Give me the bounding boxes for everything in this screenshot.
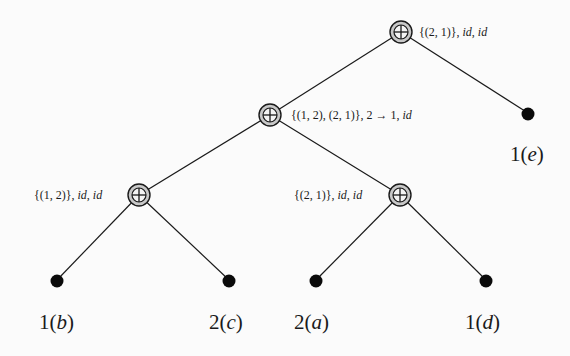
edge-mid-left: [139, 115, 270, 195]
leaf-node-d: [480, 275, 493, 288]
edge-left-leaf-b: [57, 195, 139, 280]
leaf-label-a: 2(a): [294, 310, 329, 334]
label-right: {(2, 1)}, id, id: [294, 188, 362, 202]
edge-mid-right: [270, 115, 400, 195]
leaf-node-b: [51, 275, 64, 288]
leaf-label-e: 1(e): [510, 142, 544, 166]
leaf-node-e: [522, 108, 535, 121]
label-root: {(2, 1)}, id, id: [419, 25, 487, 39]
edge-root-mid: [270, 32, 401, 115]
leaf-label-c: 2(c): [209, 310, 243, 334]
edges: [57, 32, 528, 280]
operator-node-right: [389, 184, 411, 206]
tree-graphic: [0, 0, 570, 356]
edge-left-leaf-c: [139, 195, 229, 280]
edge-root-leaf-e: [401, 32, 528, 113]
operator-node-left: [128, 184, 150, 206]
operator-node-mid: [259, 104, 281, 126]
tree-diagram: {(2, 1)}, id, id {(1, 2), (2, 1)}, 2 → 1…: [0, 0, 570, 356]
leaf-label-d: 1(d): [465, 310, 500, 334]
edge-right-leaf-d: [400, 195, 486, 280]
leaf-node-a: [310, 275, 323, 288]
leaf-node-c: [223, 275, 236, 288]
label-left: {(1, 2)}, id, id: [34, 188, 102, 202]
operator-node-root: [390, 21, 412, 43]
edge-right-leaf-a: [316, 195, 400, 280]
leaf-label-b: 1(b): [39, 310, 74, 334]
label-mid: {(1, 2), (2, 1)}, 2 → 1, id: [291, 108, 412, 122]
